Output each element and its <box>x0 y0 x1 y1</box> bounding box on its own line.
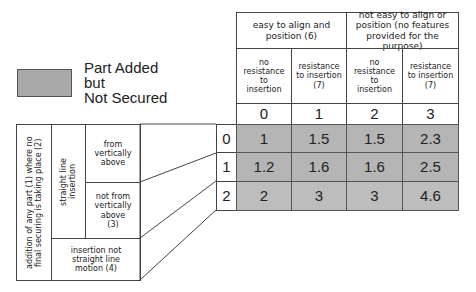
connector-lines <box>0 0 476 292</box>
